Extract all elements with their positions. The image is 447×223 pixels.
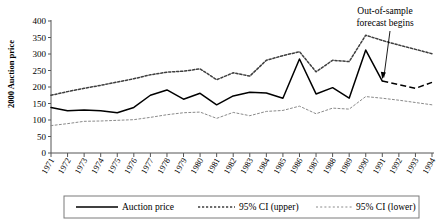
x-axis-tick-label: 1975 xyxy=(105,156,122,176)
x-axis-tick-label: 1972 xyxy=(56,156,73,176)
y-axis-tick-label: 300 xyxy=(33,49,47,59)
x-axis-tick-label: 1982 xyxy=(221,156,238,176)
y-axis-tick-label: 100 xyxy=(33,115,47,125)
x-axis-tick-label: 1993 xyxy=(404,156,421,176)
x-axis-tick-label: 1992 xyxy=(387,156,404,176)
x-axis-tick-label: 1989 xyxy=(337,156,354,176)
y-axis-tick-label: 400 xyxy=(33,16,47,26)
x-axis-tick-label: 1991 xyxy=(370,156,387,176)
legend-label-1: Auction price xyxy=(122,202,174,212)
y-axis-tick-label: 350 xyxy=(33,33,47,43)
x-axis-tick-label: 1986 xyxy=(288,156,305,176)
x-axis-tick-label: 1978 xyxy=(155,156,172,176)
y-axis-tick-label: 250 xyxy=(33,66,47,76)
annotation-line-1: Out-of-sample xyxy=(357,6,412,16)
y-axis-tick-label: 150 xyxy=(33,99,47,109)
chart-figure: 0501001502002503003504002000 Auction pri… xyxy=(0,0,447,223)
x-axis-tick-label: 1984 xyxy=(254,155,272,175)
x-axis-tick-label: 1987 xyxy=(304,156,321,176)
x-axis-tick-label: 1990 xyxy=(354,156,371,176)
y-axis-title: 2000 Auction price xyxy=(6,40,16,108)
x-axis-tick-label: 1980 xyxy=(188,156,205,176)
x-axis-tick-label: 1973 xyxy=(72,156,89,176)
legend-label-2: 95% CI (upper) xyxy=(239,202,299,213)
x-axis-tick-label: 1971 xyxy=(39,156,56,176)
series-auction-price-forecast xyxy=(382,81,432,88)
x-axis-tick-label: 1981 xyxy=(205,156,222,176)
legend-label-3: 95% CI (lower) xyxy=(356,202,416,213)
auction-price-line-chart: 0501001502002503003504002000 Auction pri… xyxy=(0,0,447,223)
y-axis-tick-label: 50 xyxy=(37,132,47,142)
y-axis-tick-label: 200 xyxy=(33,82,47,92)
x-axis-tick-label: 1979 xyxy=(172,156,189,176)
x-axis-tick-label: 1974 xyxy=(89,155,107,175)
x-axis-tick-label: 1976 xyxy=(122,156,139,176)
annotation-arrow-line xyxy=(384,31,390,78)
x-axis-tick-label: 1983 xyxy=(238,156,255,176)
annotation-line-2: forecast begins xyxy=(356,18,414,28)
x-axis-tick-label: 1994 xyxy=(420,155,438,175)
series-ci-upper xyxy=(51,35,432,95)
series-auction-price-historical xyxy=(51,50,382,113)
x-axis-tick-label: 1977 xyxy=(138,156,155,176)
x-axis-tick-label: 1988 xyxy=(321,156,338,176)
y-axis-tick-label: 0 xyxy=(42,148,47,158)
x-axis-tick-label: 1985 xyxy=(271,156,288,176)
